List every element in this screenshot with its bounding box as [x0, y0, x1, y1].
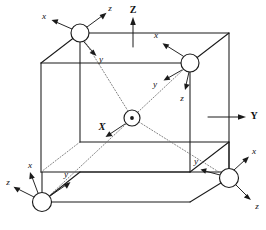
axis-x-shaft [234, 160, 245, 170]
node-marker-circle [71, 24, 89, 42]
global-y-arrowhead [238, 114, 246, 120]
axis-y-label: y [152, 79, 158, 89]
node-back-bottom-right: y x z [193, 146, 259, 211]
node-front-bottom-left-axes: z x y [5, 160, 70, 197]
axis-z-shaft [87, 16, 102, 27]
node-marker-circle [181, 54, 199, 72]
axis-z-label: z [254, 201, 259, 211]
diagonal-center-top-right [138, 69, 184, 112]
axis-X-arrowhead [106, 131, 113, 137]
node-marker-circle [33, 193, 52, 212]
node-out-of-page-dot [130, 116, 134, 120]
axis-x-shaft [32, 177, 38, 193]
axis-x-shaft [167, 46, 183, 56]
global-axis-z: Z [130, 4, 137, 47]
axis-z-arrowhead [244, 194, 251, 200]
axis-x-label: x [153, 30, 159, 40]
axis-z-arrowhead [184, 84, 190, 91]
node-marker-circle [220, 169, 239, 188]
axis-x-arrowhead [29, 172, 35, 179]
axis-y-arrowhead [201, 168, 207, 173]
axis-z-shaft [18, 189, 34, 197]
axis-z-label: z [179, 93, 184, 103]
figure-canvas: Z Y x z y [0, 0, 266, 230]
node-center: X [97, 110, 140, 137]
axis-x-label: x [27, 160, 33, 170]
diagonal-center-bottom-left [49, 124, 126, 196]
global-y-label: Y [250, 110, 258, 121]
axis-y-arrowhead [64, 182, 71, 189]
axis-X-label: X [97, 121, 106, 132]
axis-x-arrowhead [52, 19, 59, 24]
diagonal-center-bottom-right [139, 122, 222, 174]
axis-z-shaft [186, 72, 189, 85]
axis-y-shaft [84, 42, 93, 52]
axis-x-shaft [56, 22, 72, 29]
axis-x-label: x [251, 146, 257, 156]
axis-y-shaft [168, 70, 182, 78]
axis-y-shaft [50, 185, 66, 196]
node-front-bottom-left: z x y [5, 160, 70, 211]
axis-x-label: x [41, 11, 47, 21]
finite-element-cube-figure: Z Y x z y [0, 0, 266, 230]
global-z-arrowhead [130, 17, 136, 25]
axis-y-label: y [193, 156, 199, 166]
axis-z-shaft [236, 185, 247, 196]
diagonal-center-top-left [84, 40, 128, 111]
node-front-top-right: x y z [152, 30, 199, 103]
axis-x-arrowhead [242, 157, 249, 164]
axis-z-label: z [5, 177, 10, 187]
axis-z-label: z [107, 3, 112, 13]
global-z-label: Z [130, 4, 137, 15]
global-axis-y: Y [208, 110, 258, 121]
cube-edge-depth-bottom-left-hidden [41, 142, 80, 172]
axis-z-arrowhead [100, 13, 107, 20]
